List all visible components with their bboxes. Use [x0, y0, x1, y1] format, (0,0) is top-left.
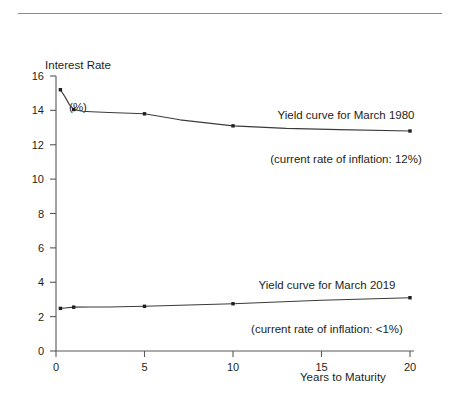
annotation-march-1980: Yield curve for March 1980 (current rate…	[246, 79, 446, 195]
annotation-1980-line2: (current rate of inflation: 12%)	[246, 152, 446, 167]
annotation-2019-line1: Yield curve for March 2019	[208, 278, 446, 293]
x-axis-title: Years to Maturity	[300, 371, 386, 383]
y-tick-label: 2	[38, 311, 44, 323]
annotation-1980-line1: Yield curve for March 1980	[246, 108, 446, 123]
series-point	[59, 307, 62, 310]
y-tick-label: 14	[32, 104, 44, 116]
annotation-2019-line2: (current rate of inflation: <1%)	[208, 322, 446, 337]
series-point	[72, 305, 75, 308]
x-tick-label: 5	[141, 361, 147, 373]
y-tick-label: 12	[32, 139, 44, 151]
x-tick-label: 0	[53, 361, 59, 373]
series-point	[231, 124, 234, 127]
annotation-march-2019: Yield curve for March 2019 (current rate…	[208, 249, 446, 365]
y-tick-label: 8	[38, 208, 44, 220]
series-point	[143, 305, 146, 308]
y-tick-label: 0	[38, 345, 44, 357]
y-axis-ticks: 0246810121416	[32, 70, 56, 357]
y-tick-label: 4	[38, 276, 44, 288]
y-tick-label: 16	[32, 70, 44, 82]
series-point	[143, 112, 146, 115]
y-tick-label: 6	[38, 242, 44, 254]
yield-curve-figure: Interest Rate (%) 0246810121416 05101520…	[0, 0, 456, 405]
y-tick-label: 10	[32, 173, 44, 185]
series-point	[59, 88, 62, 91]
series-point	[72, 108, 75, 111]
